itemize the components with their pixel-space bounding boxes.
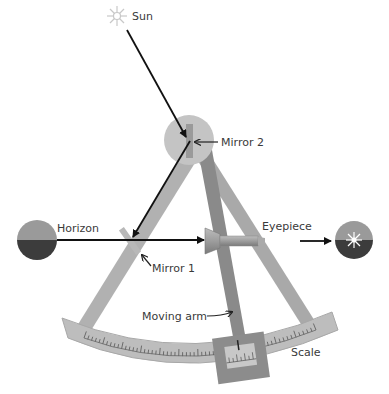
sun-label: Sun xyxy=(132,10,153,23)
mirror1-pointer xyxy=(142,255,151,266)
mirror1-label: Mirror 1 xyxy=(152,262,195,275)
moving-arm-pointer xyxy=(207,312,232,316)
vernier-box xyxy=(212,331,270,384)
reflected-ray xyxy=(133,141,190,237)
moving-arm-label: Moving arm xyxy=(142,310,207,323)
horizon-label: Horizon xyxy=(57,222,99,235)
eyepiece-label: Eyepiece xyxy=(262,220,312,233)
sun-icon xyxy=(107,6,127,26)
view-globe-icon xyxy=(333,219,377,261)
sextant-diagram: Sun xyxy=(0,0,389,394)
horizon-globe-icon xyxy=(15,218,59,262)
sun-ray xyxy=(127,30,186,137)
frame-left-leg xyxy=(77,150,198,332)
scale-label: Scale xyxy=(291,346,321,359)
mirror2-label: Mirror 2 xyxy=(221,136,264,149)
